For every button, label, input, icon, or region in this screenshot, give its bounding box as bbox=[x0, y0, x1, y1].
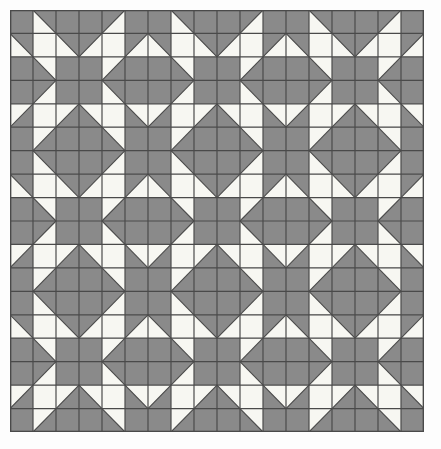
quilt-cell bbox=[401, 268, 424, 292]
quilt-cell bbox=[309, 385, 332, 409]
quilt-cell bbox=[10, 362, 33, 386]
quilt-cell bbox=[401, 127, 424, 151]
quilt-cell bbox=[378, 385, 401, 409]
quilt-cell bbox=[240, 174, 263, 198]
quilt-cell bbox=[355, 409, 378, 432]
quilt-cell bbox=[286, 80, 309, 104]
quilt-cell bbox=[355, 362, 378, 386]
quilt-cell bbox=[10, 57, 33, 81]
quilt-cell bbox=[263, 338, 286, 362]
quilt-cell bbox=[125, 362, 148, 386]
quilt-cell bbox=[102, 174, 125, 198]
quilt-cell bbox=[10, 409, 33, 432]
quilt-cell bbox=[217, 291, 240, 315]
quilt-cell bbox=[102, 33, 125, 57]
quilt-svg bbox=[10, 10, 424, 432]
quilt-cell bbox=[56, 338, 79, 362]
quilt-cell bbox=[332, 57, 355, 81]
quilt-cell bbox=[125, 10, 148, 34]
quilt-cell bbox=[217, 268, 240, 292]
quilt-cell bbox=[240, 104, 263, 128]
quilt-cell bbox=[125, 268, 148, 292]
quilt-cell bbox=[10, 221, 33, 245]
quilt-cell bbox=[309, 244, 332, 268]
quilt-cell bbox=[56, 221, 79, 245]
quilt-cell bbox=[217, 198, 240, 222]
quilt-cell bbox=[171, 315, 194, 339]
quilt-cell bbox=[378, 33, 401, 57]
quilt-cell bbox=[171, 385, 194, 409]
quilt-cell bbox=[79, 221, 102, 245]
quilt-cell bbox=[240, 385, 263, 409]
quilt-cell bbox=[33, 244, 56, 268]
quilt-cell bbox=[56, 268, 79, 292]
quilt-cell bbox=[194, 57, 217, 81]
quilt-cell bbox=[10, 80, 33, 104]
quilt-cell bbox=[401, 362, 424, 386]
quilt-cell bbox=[10, 291, 33, 315]
quilt-cell bbox=[33, 33, 56, 57]
quilt-cell bbox=[79, 127, 102, 151]
quilt-cell bbox=[355, 268, 378, 292]
quilt-cell bbox=[263, 198, 286, 222]
quilt-cell bbox=[79, 362, 102, 386]
quilt-pattern-figure bbox=[0, 0, 441, 449]
quilt-cell bbox=[125, 291, 148, 315]
quilt-cell bbox=[240, 33, 263, 57]
quilt-cell bbox=[378, 174, 401, 198]
quilt-cell bbox=[286, 338, 309, 362]
quilt-cell bbox=[217, 80, 240, 104]
quilt-cell bbox=[217, 151, 240, 175]
quilt-cell bbox=[263, 221, 286, 245]
quilt-cell bbox=[355, 151, 378, 175]
quilt-cell bbox=[33, 104, 56, 128]
quilt-cell bbox=[148, 80, 171, 104]
quilt-cell bbox=[286, 221, 309, 245]
quilt-cell bbox=[79, 198, 102, 222]
quilt-grid-canvas bbox=[10, 10, 424, 432]
quilt-cell bbox=[378, 104, 401, 128]
quilt-cell bbox=[217, 338, 240, 362]
quilt-cell bbox=[401, 338, 424, 362]
quilt-cell bbox=[355, 57, 378, 81]
quilt-cell bbox=[355, 338, 378, 362]
quilt-cell bbox=[56, 151, 79, 175]
quilt-cell bbox=[332, 268, 355, 292]
quilt-cell bbox=[309, 33, 332, 57]
quilt-cell bbox=[309, 315, 332, 339]
quilt-cell bbox=[56, 80, 79, 104]
quilt-cell bbox=[194, 80, 217, 104]
quilt-cell bbox=[217, 127, 240, 151]
quilt-cell bbox=[125, 80, 148, 104]
quilt-cell bbox=[401, 10, 424, 34]
quilt-cell bbox=[79, 80, 102, 104]
quilt-cell bbox=[194, 268, 217, 292]
quilt-cell bbox=[217, 10, 240, 34]
quilt-cell bbox=[56, 409, 79, 432]
quilt-cell bbox=[355, 80, 378, 104]
quilt-cell bbox=[240, 244, 263, 268]
quilt-cell bbox=[286, 57, 309, 81]
quilt-cell bbox=[10, 151, 33, 175]
quilt-cell bbox=[125, 409, 148, 432]
quilt-cell bbox=[33, 174, 56, 198]
quilt-cell bbox=[171, 174, 194, 198]
quilt-cell bbox=[33, 315, 56, 339]
quilt-cell bbox=[148, 338, 171, 362]
quilt-cell bbox=[79, 338, 102, 362]
quilt-cell bbox=[355, 10, 378, 34]
quilt-cell bbox=[401, 151, 424, 175]
quilt-cell bbox=[194, 221, 217, 245]
quilt-cell bbox=[332, 409, 355, 432]
quilt-cell bbox=[332, 362, 355, 386]
quilt-cell bbox=[194, 127, 217, 151]
quilt-cell bbox=[355, 291, 378, 315]
quilt-cell bbox=[148, 10, 171, 34]
quilt-cell bbox=[401, 57, 424, 81]
quilt-cell bbox=[125, 151, 148, 175]
quilt-cell bbox=[148, 127, 171, 151]
quilt-cell bbox=[10, 268, 33, 292]
quilt-cell bbox=[10, 10, 33, 34]
quilt-cell bbox=[401, 198, 424, 222]
quilt-cell bbox=[102, 104, 125, 128]
